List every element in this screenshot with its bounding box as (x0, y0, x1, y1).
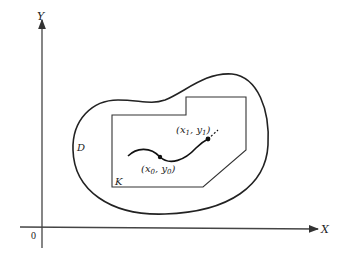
label-x0-y0: (x0, y0) (141, 163, 176, 176)
x-axis (20, 227, 318, 229)
origin-label: 0 (31, 230, 36, 241)
set-k-boundary (112, 97, 246, 187)
solution-curve (128, 139, 208, 161)
region-d-label: D (76, 142, 85, 153)
x-axis-label: X (320, 223, 330, 236)
diagram-canvas: Y X 0 D K (x0, y0) (x1, y1) (0, 0, 337, 260)
set-k-label: K (114, 176, 123, 187)
point-x1-y1 (206, 137, 211, 142)
label-x1-y1: (x1, y1) (176, 124, 211, 137)
region-d-boundary (73, 74, 268, 214)
point-x0-y0 (158, 155, 162, 159)
y-axis-label: Y (37, 10, 46, 23)
